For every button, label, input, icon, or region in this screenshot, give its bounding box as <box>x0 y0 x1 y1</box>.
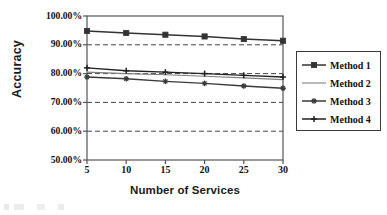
legend-item-2[interactable]: Method 2 <box>297 74 380 92</box>
legend-marker-icon <box>301 58 327 72</box>
series-3-point-2 <box>163 79 169 85</box>
legend-point-3 <box>311 98 317 104</box>
chart-legend: Method 1Method 2Method 3Method 4 <box>296 51 381 131</box>
series-4-point-1 <box>123 68 129 74</box>
legend-point-1 <box>311 62 316 67</box>
series-3-point-3 <box>202 81 208 87</box>
series-line-1 <box>87 31 283 41</box>
legend-label: Method 4 <box>327 114 371 125</box>
series-3-point-1 <box>123 76 129 82</box>
series-1-point-2 <box>163 32 168 37</box>
legend-marker-icon <box>301 76 327 90</box>
legend-label: Method 1 <box>327 60 371 71</box>
legend-item-3[interactable]: Method 3 <box>297 92 380 110</box>
series-1-point-0 <box>84 28 89 33</box>
series-1-point-3 <box>202 34 207 39</box>
series-3 <box>84 74 286 91</box>
legend-marker-icon <box>301 112 327 126</box>
series-4-point-0 <box>84 65 90 71</box>
series-1-point-5 <box>280 38 285 43</box>
series-1-point-1 <box>124 30 129 35</box>
series-3-point-5 <box>280 85 286 91</box>
legend-marker-icon <box>301 94 327 108</box>
series-1 <box>84 28 285 43</box>
legend-label: Method 3 <box>327 96 371 107</box>
series-3-point-0 <box>84 74 90 80</box>
chart-figure: Accuracy 100.00%90.00%80.00%70.00%60.00%… <box>0 0 387 215</box>
legend-label: Method 2 <box>327 78 371 89</box>
series-1-point-4 <box>241 36 246 41</box>
legend-item-4[interactable]: Method 4 <box>297 110 380 128</box>
crop-artifact <box>4 204 82 210</box>
plot-frame <box>87 16 283 160</box>
legend-point-4 <box>311 116 317 122</box>
legend-item-1[interactable]: Method 1 <box>297 56 380 74</box>
series-3-point-4 <box>241 83 247 89</box>
